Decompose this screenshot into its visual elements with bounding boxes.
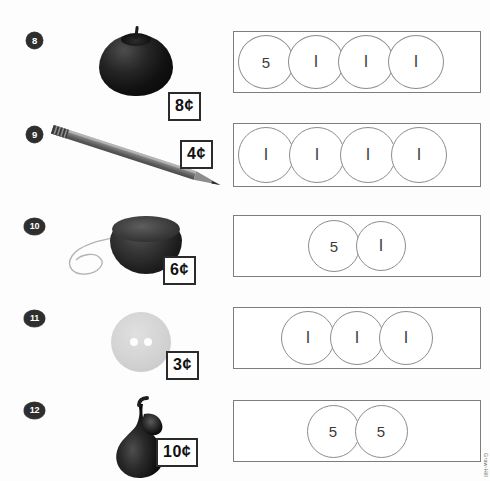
problem-number-badge: 8	[26, 32, 43, 49]
problem-row-11: 11 3¢ I I I	[0, 296, 490, 388]
price-tag: 4¢	[180, 140, 213, 169]
coin-penny[interactable]: I	[338, 35, 394, 89]
coin-penny[interactable]: I	[391, 127, 447, 183]
button-hole	[144, 338, 152, 346]
answer-box[interactable]: I I I	[233, 307, 481, 369]
coin-penny[interactable]: I	[379, 311, 433, 365]
publisher-credit: Graw-Hill	[483, 453, 489, 477]
button-hole	[130, 338, 138, 346]
apple-icon	[99, 26, 177, 104]
problem-number-badge: 12	[24, 402, 45, 419]
problem-number-badge: 10	[24, 218, 45, 235]
problem-row-12: 12	[0, 388, 490, 481]
coin-penny[interactable]: I	[281, 311, 335, 365]
coin-nickel[interactable]: 5	[238, 35, 294, 89]
coin-nickel[interactable]: 5	[308, 220, 360, 272]
problem-row-10: 10 6¢ 5 I	[0, 204, 490, 296]
problem-row-8: 8 8¢ 5 I I I	[0, 18, 490, 112]
problem-row-9: 9	[0, 112, 490, 204]
answer-box[interactable]: 5 5	[233, 400, 481, 462]
answer-box[interactable]: 5 I	[233, 215, 481, 277]
coin-penny[interactable]: I	[330, 311, 384, 365]
coin-penny[interactable]: I	[288, 35, 344, 89]
problem-number-badge: 9	[26, 126, 43, 143]
button-body	[111, 312, 171, 372]
answer-box[interactable]: I I I I	[233, 123, 481, 187]
yoyo-top-face	[112, 216, 180, 242]
price-tag: 10¢	[156, 438, 198, 467]
price-tag: 6¢	[163, 256, 196, 285]
worksheet-page: 8 8¢ 5 I I I 9	[0, 0, 490, 481]
coin-nickel[interactable]: 5	[307, 405, 360, 458]
coin-penny[interactable]: I	[356, 221, 406, 271]
price-tag: 3¢	[166, 351, 199, 380]
answer-box[interactable]: 5 I I I	[233, 31, 481, 93]
coin-penny[interactable]: I	[388, 35, 444, 89]
problem-number-badge: 11	[24, 310, 45, 327]
coin-penny[interactable]: I	[340, 127, 396, 183]
button-icon	[111, 312, 171, 372]
coin-penny[interactable]: I	[238, 127, 294, 183]
coin-nickel[interactable]: 5	[355, 405, 408, 458]
coin-penny[interactable]: I	[289, 127, 345, 183]
